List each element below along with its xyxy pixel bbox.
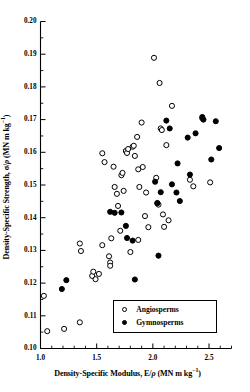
data-point (177, 198, 182, 203)
data-point (151, 55, 156, 60)
data-point (175, 161, 180, 166)
legend: AngiospermsGymnosperms (113, 300, 217, 333)
data-point (160, 212, 165, 217)
data-point (166, 218, 171, 223)
data-point (140, 164, 145, 169)
data-point (59, 286, 64, 291)
data-point (64, 278, 69, 283)
data-point (142, 214, 147, 219)
data-point (139, 120, 144, 125)
data-point (112, 210, 117, 215)
data-point (217, 146, 222, 151)
series-gymnosperms (59, 114, 221, 291)
data-point (91, 269, 96, 274)
data-point (108, 263, 113, 268)
data-point (156, 253, 161, 258)
data-point (115, 203, 120, 208)
data-point (164, 118, 169, 123)
data-point (144, 190, 149, 195)
data-point (96, 271, 101, 276)
data-point (111, 164, 116, 169)
series-angiosperms (41, 55, 212, 333)
scatter-plot-figure: Density-Specific Strength, σ/ρ (MN m kg−… (0, 0, 250, 392)
data-point (123, 223, 128, 228)
data-point (155, 201, 160, 206)
data-point (187, 177, 192, 182)
data-point (120, 170, 125, 175)
data-point (77, 241, 82, 246)
data-point (158, 190, 163, 195)
data-point (153, 179, 158, 184)
data-point (159, 128, 164, 133)
data-point (193, 131, 198, 136)
data-point (109, 236, 114, 241)
open-circle-icon (122, 307, 127, 312)
data-point (121, 188, 126, 193)
data-point (77, 320, 82, 325)
data-point (146, 225, 151, 230)
data-point (191, 184, 196, 189)
data-point (185, 135, 190, 140)
data-point (100, 243, 105, 248)
data-point (137, 184, 142, 189)
data-point (119, 210, 124, 215)
legend-item-gymnosperms: Gymnosperms (122, 318, 183, 327)
data-point (208, 180, 213, 185)
data-point (112, 184, 117, 189)
data-point (131, 143, 136, 148)
data-point (209, 157, 214, 162)
data-point (62, 326, 67, 331)
data-point (93, 277, 98, 282)
data-point (132, 153, 137, 158)
data-point (164, 143, 169, 148)
data-point (45, 329, 50, 334)
data-point (167, 126, 172, 131)
data-point (187, 172, 192, 177)
filled-circle-icon (122, 320, 127, 325)
data-point (169, 103, 174, 108)
data-point (118, 228, 123, 233)
data-point (124, 235, 129, 240)
data-point (106, 254, 111, 259)
data-point (114, 191, 119, 196)
legend-label: Gymnosperms (136, 318, 183, 327)
data-point (169, 182, 174, 187)
data-point (135, 134, 140, 139)
data-point (132, 277, 137, 282)
data-point (174, 190, 179, 195)
x-axis-ticks (41, 344, 232, 349)
data-point (201, 117, 206, 122)
plot-canvas (0, 0, 250, 392)
data-point (213, 119, 218, 124)
data-point (157, 80, 162, 85)
y-axis-ticks (41, 22, 46, 349)
data-point (41, 293, 46, 298)
data-point (78, 249, 83, 254)
legend-label: Angiosperms (136, 305, 179, 314)
data-point (162, 224, 167, 229)
data-point (100, 151, 105, 156)
legend-item-angiosperms: Angiosperms (122, 305, 179, 314)
data-point (130, 238, 135, 243)
data-point (128, 249, 133, 254)
data-point (136, 237, 141, 242)
data-point (102, 160, 107, 165)
